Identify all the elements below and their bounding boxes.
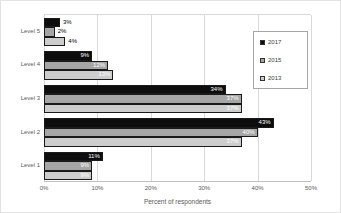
bar-2013-level-3 <box>44 104 242 114</box>
x-tick-label: 50% <box>296 185 326 191</box>
x-axis-title: Percent of respondents <box>44 198 311 205</box>
bar-value-label: 4% <box>68 37 77 46</box>
bar-value-label: 9% <box>70 51 89 60</box>
legend-label: 2013 <box>268 75 281 81</box>
legend-label: 2017 <box>268 39 281 45</box>
bar-2013-level-2 <box>44 137 242 147</box>
bar-value-label: 9% <box>70 161 89 170</box>
bar-value-label: 43% <box>252 118 271 127</box>
bar-value-label: 3% <box>63 18 72 27</box>
x-tick-label: 10% <box>82 185 112 191</box>
x-tick-label: 30% <box>189 185 219 191</box>
y-category-label-level-4: Level 4 <box>3 48 40 82</box>
bar-value-label: 40% <box>236 128 255 137</box>
bar-value-label: 37% <box>220 94 239 103</box>
legend: 201720152013 <box>253 31 308 89</box>
bar-2015-level-5 <box>44 27 55 37</box>
grouped-bar-chart: 3%2%4%9%12%13%34%37%37%43%40%37%11%9%9% … <box>0 0 341 213</box>
legend-label: 2015 <box>268 57 281 63</box>
legend-swatch-2015 <box>260 58 265 63</box>
legend-item-2015: 2015 <box>260 57 301 63</box>
bar-value-label: 37% <box>220 104 239 113</box>
legend-swatch-2013 <box>260 76 265 81</box>
bar-value-label: 9% <box>70 171 89 180</box>
y-category-label-level-1: Level 1 <box>3 148 40 182</box>
bar-value-label: 37% <box>220 137 239 146</box>
bar-2015-level-2 <box>44 128 258 138</box>
bar-value-label: 2% <box>58 27 67 36</box>
y-category-label-level-2: Level 2 <box>3 115 40 149</box>
bar-value-label: 34% <box>204 85 223 94</box>
bar-2013-level-5 <box>44 37 65 47</box>
bar-value-label: 11% <box>81 152 100 161</box>
x-tick-label: 0% <box>29 185 59 191</box>
x-tick-label: 40% <box>243 185 273 191</box>
bar-2015-level-3 <box>44 94 242 104</box>
y-category-label-level-3: Level 3 <box>3 81 40 115</box>
gridline <box>311 15 312 181</box>
bar-value-label: 12% <box>86 61 105 70</box>
bar-2017-level-5 <box>44 18 60 28</box>
x-tick-label: 20% <box>136 185 166 191</box>
legend-item-2017: 2017 <box>260 39 301 45</box>
legend-item-2013: 2013 <box>260 75 301 81</box>
bar-2017-level-3 <box>44 85 226 95</box>
bar-value-label: 13% <box>91 70 110 79</box>
legend-swatch-2017 <box>260 40 265 45</box>
y-category-label-level-5: Level 5 <box>3 14 40 48</box>
bar-2017-level-2 <box>44 118 274 128</box>
